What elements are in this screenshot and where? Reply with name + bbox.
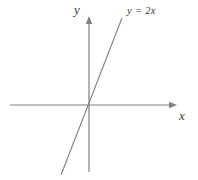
x-axis-label: x: [179, 109, 185, 122]
coordinate-plot-figure: y x y = 2x: [0, 0, 198, 180]
line-y-equals-2x: [61, 18, 122, 175]
line-equation-label: y = 2x: [127, 6, 156, 17]
y-axis-arrowhead: [86, 16, 92, 24]
y-axis-label: y: [74, 3, 80, 16]
x-axis-arrowhead: [169, 102, 177, 108]
plot-canvas: [0, 0, 198, 180]
